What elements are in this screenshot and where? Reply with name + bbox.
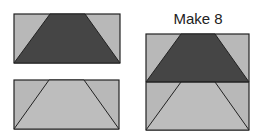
unit-dark-trapezoid [14,14,120,63]
unit-light-trapezoid [14,80,119,129]
make-count-label: Make 8 [146,10,250,27]
combined-block [146,34,249,130]
